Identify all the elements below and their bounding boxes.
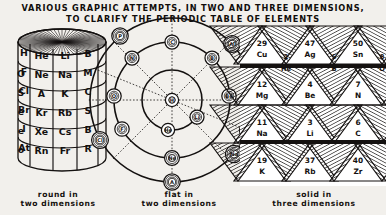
triangle-down-number: 2 [284,53,289,61]
wheel-node-label: F [120,126,124,132]
triangle-number: 40 [353,156,363,165]
cylinder-cell-kr: Kr [36,107,48,118]
wheel-node-c: C [165,35,179,49]
cylinder-cell-r: R [84,143,92,154]
cylinder-cell-rn: Rn [35,145,49,156]
wheel-node-li: Li [190,110,204,124]
triangle-symbol: Sn [353,50,364,59]
caption-solid: solid in three dimensions [250,190,378,208]
page-title-line-1: VARIOUS GRAPHIC ATTEMPTS, IN TWO AND THR… [21,3,364,13]
illustration-canvas: VARIOUS GRAPHIC ATTEMPTS, IN TWO AND THR… [0,0,386,215]
wheel-node-h: H [165,93,178,106]
cylinder-cell-he: He [34,50,48,61]
triangle-symbol: C [355,129,360,138]
wheel-node-f: F [115,122,129,136]
wheel-node-label: O [112,93,117,99]
wheel-node-label: B [210,55,214,61]
cylinder-cell-b: B [84,48,91,59]
cylinder-cell-li: Li [60,50,69,61]
triangle-number: 47 [305,39,315,48]
triangle-number: 6 [355,118,360,127]
caption-solid-line-2: three dimensions [250,199,378,208]
triangle-number: 12 [257,80,267,89]
cylinder-cell-xe: Xe [35,126,48,137]
cylinder-cell-cs: Cs [59,126,72,137]
wheel-node-cl: Cl [92,132,109,149]
cylinder-left-label: e [18,125,24,136]
wheel-node-label: Li [195,114,200,120]
wheel-node-n: N [125,51,139,65]
cylinder-cell-fr: Fr [60,145,71,156]
wheel-node-label: P [118,33,122,39]
caption-cylinder: round in two dimensions [6,190,110,208]
triangle-symbol: Ag [304,50,315,59]
triangle-down-number: 5 [332,53,337,61]
triangle-symbol: Cu [257,50,268,59]
triangle-number: 37 [305,156,315,165]
triangle-lattice-diagram: 29Cu47Ag50Sn12Mg4Be7N2He5B8O11Na3Li6C19K… [240,28,386,186]
cylinder-cell-h: H [20,47,28,58]
wheel-node-a: A [164,174,180,190]
triangle-symbol: Zr [353,167,362,176]
triangle-symbol: K [259,167,265,176]
triangle-symbol: Rb [305,167,316,176]
wheel-node-b: B [205,51,219,65]
wheel-node-label: Ne [168,155,176,161]
cylinder-cells: HHeLiBFNeNaMClAKCBrKrRbSIXeCsBAtRnFrR [18,47,93,156]
cylinder-cell-m: M [83,67,92,78]
wheel-node-label: A [170,179,174,185]
wheel-node-he: He [161,123,174,136]
triangle-number: 50 [353,39,363,48]
caption-wheel: flat in two dimensions [125,190,233,208]
wheel-node-label: C [170,39,174,45]
wheel-node-label: Cl [97,137,103,143]
cylinder-cell-rb: Rb [58,107,72,118]
caption-wheel-line-2: two dimensions [125,199,233,208]
triangle-number: 19 [257,156,267,165]
cylinder-cell-k: K [61,88,69,99]
wheel-node-label: H [170,97,174,103]
triangle-number: 4 [307,80,312,89]
triangle-symbol: Mg [256,91,269,100]
cylinder-left-label: e [18,106,24,117]
triangle-number: 3 [307,118,312,127]
cylinder-cell-a: A [38,88,46,99]
cylinder-cell-na: Na [58,69,72,80]
triangles-svg: 29Cu47Ag50Sn12Mg4Be7N2He5B8O11Na3Li6C19K… [240,28,386,186]
page-title-line-2: TO CLARIFY THE PERIODIC TABLE OF ELEMENT… [0,14,386,25]
caption-cylinder-line-1: round in [6,190,110,199]
caption-wheel-line-1: flat in [125,190,233,199]
caption-cylinder-line-2: two dimensions [6,199,110,208]
cylinder-left-label: o [18,144,25,155]
cylinder-left-label: S [18,87,25,98]
wheel-node-p: P [112,28,128,44]
triangle-number: 11 [257,118,267,127]
cylinder-cell-ne: Ne [34,69,48,80]
triangle-number: 29 [257,39,267,48]
cylinder-cell-b: B [84,124,91,135]
wheel-node-label: N [130,55,134,61]
wheel-node-o: O [107,89,121,103]
cylinder-left-label: O [17,68,25,79]
triangle-symbol: Li [306,129,313,138]
triangle-down-number: 8 [380,53,385,61]
triangle-symbol: Na [256,129,267,138]
caption-solid-line-1: solid in [250,190,378,199]
wheel-node-ne: Ne [165,151,180,166]
triangle-symbol: N [355,91,361,100]
triangle-symbol: Be [305,91,316,100]
triangle-number: 7 [355,80,360,89]
wheel-node-label: He [164,127,172,133]
